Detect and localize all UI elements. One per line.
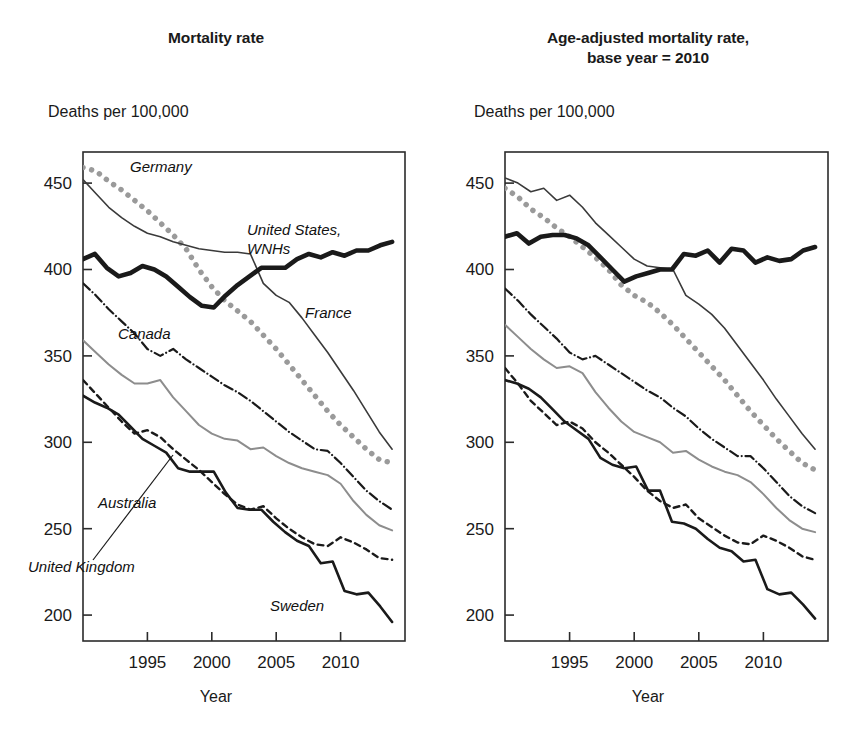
y-axis-tick-label: 300	[466, 433, 494, 452]
x-axis-tick-label: 1995	[551, 653, 589, 672]
y-axis-tick-label: 250	[44, 520, 72, 539]
chart-panel-age-adjusted-mortality-rate: Age-adjusted mortality rate, base year =…	[432, 0, 864, 742]
x-axis-caption-left: Year	[0, 688, 432, 706]
chart-panel-mortality-rate: Mortality rate Deaths per 100,000 200250…	[0, 0, 432, 742]
x-axis-tick-label: 2005	[680, 653, 718, 672]
series-line-united-states-wnhs	[505, 233, 815, 281]
x-axis-tick-label: 2000	[615, 653, 653, 672]
y-axis-tick-label: 350	[44, 347, 72, 366]
x-axis-tick-label: 1995	[128, 653, 166, 672]
series-annotation-germany: Germany	[130, 158, 193, 175]
x-axis-tick-label: 2000	[193, 653, 231, 672]
x-axis-tick-label: 2005	[257, 653, 295, 672]
y-axis-tick-label: 450	[466, 174, 494, 193]
y-axis-tick-label: 200	[466, 606, 494, 625]
figure-container: Mortality rate Deaths per 100,000 200250…	[0, 0, 864, 742]
x-axis-caption-right: Year	[432, 688, 864, 706]
series-annotation-australia: Australia	[97, 494, 156, 511]
x-axis-tick-label: 2010	[322, 653, 360, 672]
series-annotation-united-kingdom: United Kingdom	[28, 558, 135, 575]
y-axis-tick-label: 250	[466, 520, 494, 539]
y-axis-tick-label: 300	[44, 433, 72, 452]
y-axis-tick-label: 400	[466, 260, 494, 279]
y-axis-tick-label: 400	[44, 260, 72, 279]
series-annotation-sweden: Sweden	[270, 597, 324, 614]
series-annotation-united-states-wnhs-1: United States,	[247, 221, 341, 238]
series-group	[83, 168, 392, 622]
chart-svg-left: 2002503003504004501995200020052010German…	[0, 0, 432, 742]
series-line-germany	[505, 188, 815, 470]
series-line-canada	[505, 289, 815, 514]
y-axis-tick-label: 350	[466, 347, 494, 366]
x-axis-tick-label: 2010	[744, 653, 782, 672]
series-line-australia	[505, 368, 815, 560]
series-annotation-france: France	[305, 304, 352, 321]
series-group	[505, 178, 815, 619]
y-axis-tick-label: 450	[44, 174, 72, 193]
series-annotation-canada: Canada	[118, 325, 171, 342]
series-annotation-united-states-wnhs-2: WNHs	[247, 240, 291, 257]
chart-svg-right: 2002503003504004501995200020052010	[432, 0, 864, 742]
y-axis-tick-label: 200	[44, 606, 72, 625]
